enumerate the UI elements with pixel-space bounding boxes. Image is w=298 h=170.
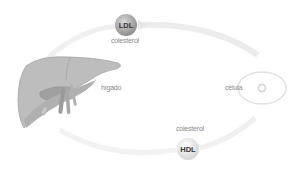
hdl-transport-arrow (60, 118, 255, 153)
hdl-label: HDL (178, 145, 198, 154)
cholesterol-cycle-diagram (0, 0, 298, 170)
hdl-sublabel: colesterol (176, 125, 204, 132)
ldl-sublabel: colesterol (111, 37, 139, 44)
liver-label: hígado (101, 84, 121, 91)
ldl-label: LDL (116, 21, 136, 30)
cell-icon (238, 72, 286, 104)
cell-label: célula (225, 84, 242, 91)
liver-icon (18, 57, 121, 128)
ldl-transport-arrow (48, 20, 258, 58)
